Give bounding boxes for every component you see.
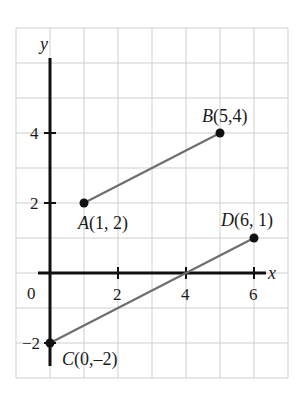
- point-a: [80, 199, 89, 208]
- point-d: [250, 234, 259, 243]
- x-tick-label-2: 2: [113, 285, 122, 304]
- point-a-label: A(1, 2): [77, 213, 128, 234]
- origin-label: 0: [27, 284, 36, 303]
- point-d-label: D(6, 1): [220, 210, 273, 231]
- x-tick-label-4: 4: [181, 285, 190, 304]
- point-b: [216, 129, 225, 138]
- y-tick-label-2: 2: [30, 194, 39, 213]
- x-tick-label-6: 6: [249, 285, 258, 304]
- point-b-label: B(5,4): [202, 106, 248, 127]
- coordinate-plane: y x 0 2 4 6 4 2 −2 A(1, 2) B(5,4) C(0,–2…: [0, 0, 302, 400]
- grid: [16, 28, 288, 378]
- y-axis-label: y: [38, 34, 48, 54]
- point-c-label: C(0,–2): [62, 349, 118, 370]
- point-c: [46, 339, 55, 348]
- y-tick-label-4: 4: [30, 124, 39, 143]
- x-axis-label: x: [267, 263, 276, 283]
- y-tick-label-neg2: −2: [22, 334, 40, 353]
